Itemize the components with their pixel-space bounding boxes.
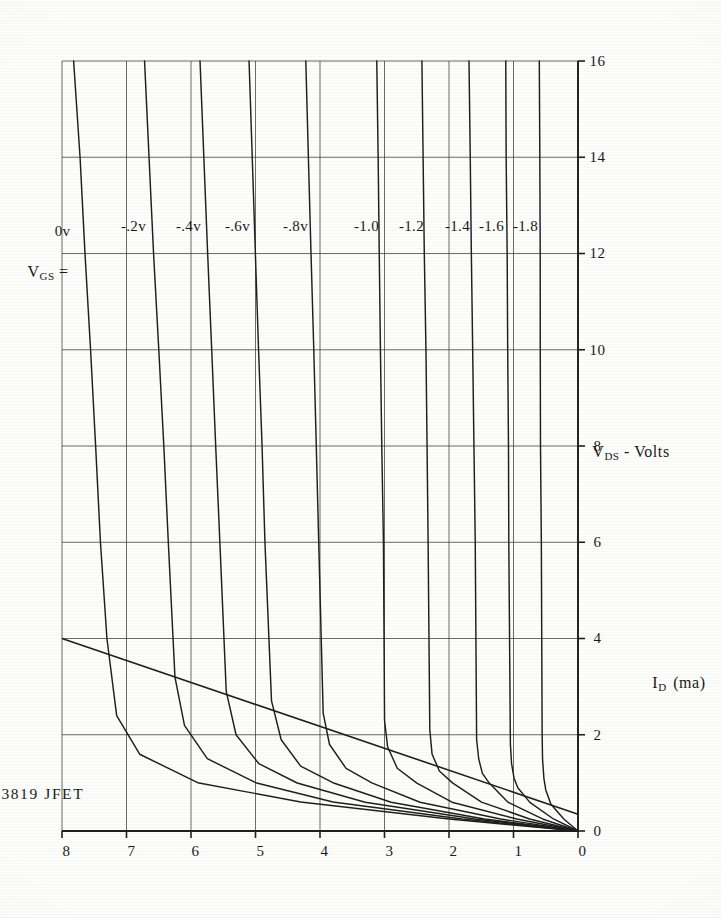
curve-label: -.4v	[176, 219, 201, 234]
curve-label: -1.4	[445, 219, 470, 234]
curve-label: -.8v	[283, 219, 308, 234]
x-axis-unit: - Volts	[624, 443, 670, 460]
vgs-equals: =	[59, 262, 69, 279]
x-tick-label: 2	[589, 727, 607, 742]
curve-label: -.6v	[225, 219, 250, 234]
figure: 2N3819 JFET VDS - Volts ID (ma) VGS = 02…	[0, 0, 721, 918]
y-tick-label: 8	[51, 844, 71, 859]
grid-lines	[62, 61, 578, 831]
curve-label: -1.6	[479, 219, 504, 234]
y-tick-label: 0	[567, 844, 587, 859]
curve-family-label: VGS =	[28, 263, 69, 281]
vgs-symbol: V	[28, 262, 40, 279]
curve-label: -.2v	[121, 219, 146, 234]
x-tick-label: 16	[589, 54, 607, 69]
x-tick-label: 4	[589, 631, 607, 646]
y-axis-title: ID (ma)	[652, 675, 706, 693]
y-tick-label: 6	[180, 844, 200, 859]
x-axis-subscript: DS	[604, 450, 619, 462]
y-tick-label: 3	[373, 844, 393, 859]
x-tick-label: 6	[589, 535, 607, 550]
rotated-page-content: 2N3819 JFET VDS - Volts ID (ma) VGS = 02…	[0, 0, 721, 918]
vgs-subscript: GS	[40, 269, 55, 281]
x-tick-label: 14	[589, 150, 607, 165]
curve-label: -1.0	[354, 219, 379, 234]
x-tick-label: 12	[589, 246, 607, 261]
curve-label: -1.2	[399, 219, 424, 234]
x-tick-label: 0	[589, 824, 607, 839]
curve-label: 0v	[55, 223, 71, 238]
y-tick-label: 4	[309, 844, 329, 859]
page-title: 2N3819 JFET	[0, 786, 84, 802]
y-tick-label: 5	[244, 844, 264, 859]
y-tick-label: 1	[502, 844, 522, 859]
y-axis-subscript: D	[658, 681, 666, 693]
y-tick-label: 7	[115, 844, 135, 859]
curve-label: -1.8	[513, 219, 538, 234]
x-tick-label: 10	[589, 342, 607, 357]
y-tick-label: 2	[438, 844, 458, 859]
y-axis-unit: (ma)	[673, 674, 706, 691]
x-tick-label: 8	[589, 439, 607, 454]
scanned-page: 2N3819 JFET VDS - Volts ID (ma) VGS = 02…	[0, 0, 721, 918]
